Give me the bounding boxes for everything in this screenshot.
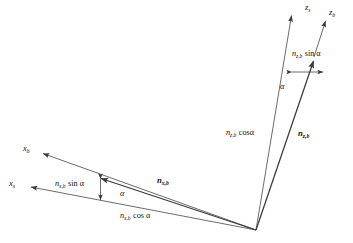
n-z-b-vector-label: nz,b	[298, 129, 309, 139]
n-z-b-sin-text: sin α	[305, 49, 321, 58]
z-stability-axis-line	[256, 16, 292, 231]
n-z-b-cos-alpha-label: nz,bcosα	[226, 129, 254, 138]
alpha-angle-left-label: α	[120, 190, 124, 198]
n-x-b-cos-text: cos α	[133, 211, 150, 220]
alpha-angle-right-label: α	[280, 83, 284, 91]
z-body-axis-label: zb	[329, 8, 335, 18]
n-x-b-sin-subscript: x,b	[59, 183, 65, 189]
n-x-b-vector-subscript: x,b	[162, 180, 169, 186]
n-x-b-cos-subscript: x,b	[124, 215, 130, 221]
n-x-b-vector-label: nx,b	[157, 176, 169, 186]
x-stability-axis-subscript: s	[13, 183, 15, 189]
vector-decomposition-diagram: zs zb nz,bsin α α nz,bcosα nz,b xb xs nx…	[0, 0, 353, 243]
x-stability-axis-label: xs	[9, 179, 15, 189]
n-x-b-sin-alpha-label: nx,bsin α	[55, 180, 84, 189]
n-z-b-cos-text: cosα	[239, 128, 254, 137]
n-x-b-vector-line	[101, 179, 256, 231]
n-x-b-cos-alpha-label: nx,bcos α	[120, 212, 150, 221]
n-z-b-cos-subscript: z,b	[230, 132, 236, 138]
x-stability-axis-line	[31, 187, 256, 230]
n-z-b-vector-line	[256, 61, 314, 230]
x-body-axis-label: xb	[23, 144, 30, 154]
x-body-axis-subscript: b	[27, 148, 30, 154]
n-z-b-vector-subscript: z,b	[303, 133, 309, 139]
n-x-b-sin-text: sin α	[68, 179, 84, 188]
n-z-b-sin-alpha-label: nz,bsin α	[292, 50, 321, 59]
z-body-axis-subscript: b	[332, 12, 335, 18]
n-z-b-sin-subscript: z,b	[296, 53, 302, 59]
z-stability-axis-subscript: s	[308, 7, 310, 13]
z-stability-axis-label: zs	[305, 3, 311, 13]
diagram-canvas	[0, 0, 353, 243]
